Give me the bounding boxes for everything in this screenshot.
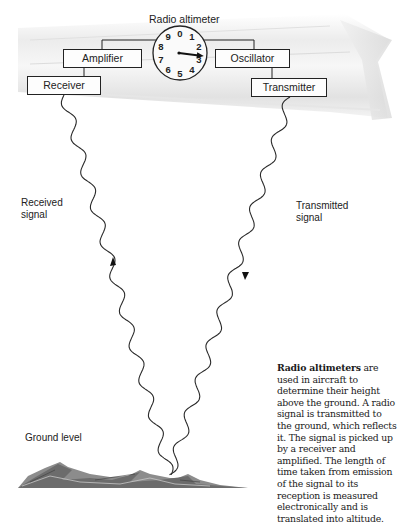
dial-number-7: 7 bbox=[158, 54, 163, 65]
dial-number-8: 8 bbox=[158, 41, 163, 52]
transmitted-signal-wave bbox=[170, 97, 291, 475]
transmitted-signal-arrow-icon bbox=[242, 272, 249, 280]
caption-bold-term: Radio altimeters bbox=[277, 362, 361, 373]
transmitter-box: Transmitter bbox=[251, 78, 327, 97]
transmitted-signal-label-line2: signal bbox=[296, 212, 348, 224]
dial-number-9: 9 bbox=[166, 31, 171, 42]
dial-number-0: 0 bbox=[177, 28, 182, 39]
received-signal-label-line2: signal bbox=[21, 209, 63, 221]
dial-number-4: 4 bbox=[189, 64, 195, 75]
received-signal-label-line1: Received bbox=[21, 197, 63, 209]
received-signal-label: Received signal bbox=[21, 197, 63, 221]
transmitted-signal-label: Transmitted signal bbox=[296, 200, 348, 224]
altimeter-dial: 0123456789 bbox=[153, 26, 207, 80]
dial-number-5: 5 bbox=[177, 68, 183, 79]
dial-number-2: 2 bbox=[196, 41, 201, 52]
amplifier-box: Amplifier bbox=[63, 49, 142, 68]
oscillator-box: Oscillator bbox=[215, 49, 290, 68]
ground-terrain bbox=[18, 462, 248, 488]
ground-level-label: Ground level bbox=[25, 432, 82, 444]
dial-number-1: 1 bbox=[189, 31, 195, 42]
dial-number-6: 6 bbox=[166, 64, 171, 75]
caption-text: Radio altimeters are used in aircraft to… bbox=[277, 362, 397, 524]
receiver-box: Receiver bbox=[27, 76, 101, 95]
caption-body: are used in aircraft to determine their … bbox=[277, 362, 396, 524]
received-signal-wave bbox=[61, 95, 173, 475]
diagram-title: Radio altimeter bbox=[149, 13, 220, 25]
transmitted-signal-label-line1: Transmitted bbox=[296, 200, 348, 212]
